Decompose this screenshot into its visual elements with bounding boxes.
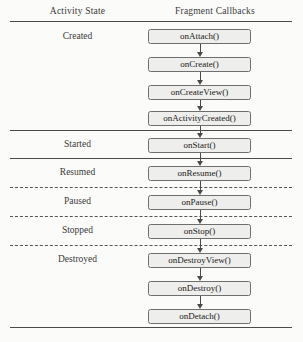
callback-box: onStart() bbox=[148, 138, 251, 153]
callback-box: onPause() bbox=[148, 195, 251, 210]
callback-box: onResume() bbox=[148, 166, 251, 181]
divider-dashed bbox=[10, 187, 292, 188]
divider-solid bbox=[10, 130, 292, 131]
arrow-shaft bbox=[200, 153, 202, 161]
arrow-down-icon bbox=[197, 100, 204, 111]
callback-box: onActivityCreated() bbox=[148, 111, 251, 126]
arrow-shaft bbox=[200, 72, 202, 80]
callback-box: onCreate() bbox=[148, 57, 251, 72]
column-header-fragment-callbacks: Fragment Callbacks bbox=[140, 6, 290, 16]
callback-box: onCreateView() bbox=[148, 85, 251, 100]
arrow-shaft bbox=[200, 181, 202, 190]
arrow-down-icon bbox=[197, 181, 204, 195]
fragment-lifecycle-diagram: Activity State Fragment Callbacks Create… bbox=[0, 0, 303, 342]
arrow-down-icon bbox=[197, 239, 204, 253]
activity-state-label: Started bbox=[15, 139, 140, 149]
callback-box: onDestroyView() bbox=[148, 253, 251, 268]
divider-solid bbox=[10, 327, 292, 328]
arrow-shaft bbox=[200, 126, 202, 133]
divider-dashed bbox=[10, 216, 292, 217]
activity-state-label: Paused bbox=[15, 196, 140, 206]
activity-state-label: Stopped bbox=[15, 225, 140, 235]
callback-box: onAttach() bbox=[148, 29, 251, 44]
arrow-down-icon bbox=[197, 72, 204, 85]
arrow-shaft bbox=[200, 239, 202, 248]
divider-solid bbox=[10, 158, 292, 159]
arrow-down-icon bbox=[197, 126, 204, 138]
arrow-shaft bbox=[200, 296, 202, 304]
arrow-down-icon bbox=[197, 268, 204, 281]
divider-solid bbox=[10, 21, 292, 22]
activity-state-label: Resumed bbox=[15, 167, 140, 177]
activity-state-label: Created bbox=[15, 31, 140, 41]
column-header-activity-state: Activity State bbox=[15, 6, 140, 16]
arrow-down-icon bbox=[197, 210, 204, 224]
arrow-shaft bbox=[200, 268, 202, 276]
activity-state-label: Destroyed bbox=[15, 254, 140, 264]
arrow-down-icon bbox=[197, 296, 204, 309]
arrow-shaft bbox=[200, 210, 202, 219]
arrow-down-icon bbox=[197, 153, 204, 166]
callback-box: onStop() bbox=[148, 224, 251, 239]
arrow-shaft bbox=[200, 44, 202, 52]
callback-box: onDestroy() bbox=[148, 281, 251, 296]
arrow-down-icon bbox=[197, 44, 204, 57]
divider-dashed bbox=[10, 245, 292, 246]
callback-box: onDetach() bbox=[148, 309, 251, 324]
